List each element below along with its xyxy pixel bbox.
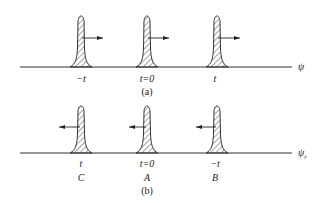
wave-pulse-diagram: −t t=0 t (a) ψ t t=0 −t C A B (b) ψr — [0, 0, 319, 203]
pulse-label: −t — [210, 158, 220, 169]
axis-label-subscript: r — [304, 153, 307, 161]
pulse-label: t=0 — [140, 73, 155, 84]
pulse-label: t — [214, 73, 217, 84]
point-label: B — [212, 172, 218, 183]
pulse-label: t — [80, 158, 83, 169]
pulse-b-3 — [206, 106, 228, 153]
pulse-b-1 — [70, 106, 92, 153]
pulse-a-3 — [206, 16, 228, 67]
panel-caption: (a) — [141, 86, 152, 98]
pulse-a-2 — [136, 16, 158, 67]
pulse-a-1 — [70, 16, 92, 67]
point-label: A — [143, 172, 151, 183]
axis-label-psi: ψ — [298, 61, 305, 72]
panel-caption: (b) — [141, 185, 153, 197]
pulse-label: t=0 — [140, 158, 155, 169]
panel-a: −t t=0 t (a) ψ — [20, 16, 305, 98]
pulse-b-2 — [136, 106, 158, 153]
point-label: C — [78, 172, 85, 183]
pulse-label: −t — [76, 73, 86, 84]
panel-b: t t=0 −t C A B (b) ψr — [20, 106, 307, 197]
axis-label-psi: ψr — [298, 147, 307, 161]
